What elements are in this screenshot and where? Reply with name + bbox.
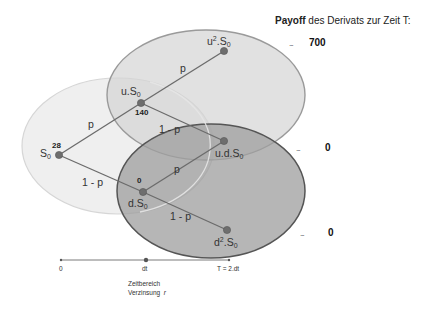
binomial-tree-diagram: Payoff des Derivats zur Zeit T: S0 28 u.… <box>0 0 422 311</box>
payoff-ellipsis-3: ... <box>300 230 304 238</box>
node-label-u2s0-mid: .S <box>217 35 227 47</box>
node-d2s0 <box>223 226 230 233</box>
node-label-ds0-prefix: d.S <box>128 197 144 209</box>
node-uds0 <box>220 137 227 144</box>
payoff-value-uu: 700 <box>309 38 326 48</box>
edge-label-p2-down: p <box>174 164 180 175</box>
payoff-value-dd: 0 <box>328 228 334 238</box>
payoff-title-bold: Payoff <box>275 15 306 26</box>
node-label-d2s0-sub: 0 <box>234 242 238 249</box>
timeline-caption-var: r <box>164 289 166 296</box>
edge-label-p2-up: p <box>180 63 186 74</box>
node-label-us0-sub: 0 <box>137 91 141 98</box>
node-label-u2s0-sub: 0 <box>227 41 231 48</box>
node-label-ds0: d.S0 <box>128 198 148 210</box>
node-label-s0-base: S <box>40 147 47 159</box>
node-label-uds0-prefix: u.d.S <box>215 147 240 159</box>
node-s0 <box>55 151 62 158</box>
payoff-ellipsis-2: ... <box>296 145 300 153</box>
payoff-title-rest: des Derivats zur Zeit T: <box>306 15 411 26</box>
timeline-label-0: 0 <box>59 266 63 273</box>
node-label-u2s0: u2.S0 <box>207 35 231 48</box>
node-value-ds0: 0 <box>137 177 141 185</box>
timeline-caption-line1: Zeitbereich <box>128 280 166 289</box>
edge-label-p1: p <box>88 119 94 130</box>
node-u2s0 <box>220 47 227 54</box>
edge-label-q2-up: 1 - p <box>159 124 180 135</box>
node-label-ds0-sub: 0 <box>144 203 148 210</box>
timeline-caption-line2-text: Verzinsung <box>128 289 160 296</box>
timeline-tick-dt <box>144 258 148 262</box>
timeline-tick-T <box>228 259 230 261</box>
edge-label-q2-down: 1 - p <box>170 211 191 222</box>
node-label-us0: u.S0 <box>121 86 141 98</box>
node-label-us0-prefix: u.S <box>121 85 137 97</box>
node-label-uds0: u.d.S0 <box>215 148 243 160</box>
node-value-s0: 28 <box>52 142 61 150</box>
node-value-us0: 140 <box>135 109 148 117</box>
node-label-s0-sub: 0 <box>47 153 51 160</box>
timeline-caption: Zeitbereich Verzinsung r <box>128 280 166 298</box>
node-label-d2s0-mid: .S <box>224 236 234 248</box>
node-label-uds0-sub: 0 <box>240 153 244 160</box>
timeline-tick-0 <box>60 259 62 261</box>
edge-label-q1: 1 - p <box>82 177 103 188</box>
node-label-s0: S0 <box>40 148 51 160</box>
node-ds0 <box>139 188 146 195</box>
payoff-ellipsis-1: ... <box>289 40 293 48</box>
payoff-title: Payoff des Derivats zur Zeit T: <box>275 16 410 26</box>
payoff-value-ud: 0 <box>325 143 331 153</box>
timeline-caption-line2: Verzinsung r <box>128 289 166 298</box>
node-label-d2s0: d2.S0 <box>214 236 238 249</box>
timeline-label-T: T = 2.dt <box>217 266 239 273</box>
timeline-label-dt: dt <box>142 266 147 273</box>
node-us0 <box>137 99 144 106</box>
